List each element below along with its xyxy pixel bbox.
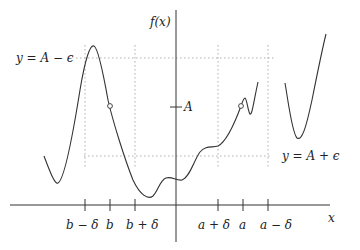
upper-epsilon-label: y = A − ϵ <box>15 51 74 65</box>
limit-definition-diagram: f(x) x A y = A − ϵ y = A + ϵ b − δ b b +… <box>0 0 360 250</box>
tick-label-b-plus-delta: b + δ <box>126 218 159 232</box>
function-curve-right-branch <box>285 34 326 138</box>
hole-at-a-marker <box>239 104 244 109</box>
y-axis-label: f(x) <box>149 15 171 29</box>
diagram-canvas: f(x) x A y = A − ϵ y = A + ϵ b − δ b b +… <box>0 0 360 250</box>
function-curve-wiggle <box>241 82 258 114</box>
x-axis-label: x <box>328 211 335 225</box>
tick-label-a-minus-delta: a − δ <box>260 218 292 232</box>
function-curve-main <box>44 46 241 197</box>
tick-label-b: b <box>106 218 114 232</box>
tick-label-b-minus-delta: b − δ <box>66 218 99 232</box>
hole-at-b-marker <box>108 104 113 109</box>
tick-label-a: a <box>239 218 246 232</box>
lower-epsilon-label: y = A + ϵ <box>281 149 340 163</box>
y-tick-label-A: A <box>183 100 193 114</box>
tick-label-a-plus-delta: a + δ <box>198 218 230 232</box>
